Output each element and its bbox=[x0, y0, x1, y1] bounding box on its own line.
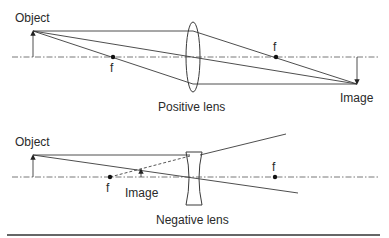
focal-point-right bbox=[274, 55, 278, 59]
focal-point-right bbox=[273, 175, 277, 179]
diverging-ray bbox=[200, 134, 286, 155]
negative-lens-diagram: Object f f Image Negative lens bbox=[12, 134, 380, 227]
image-label: Image bbox=[340, 91, 374, 105]
lens-diagram: Object f f Positive lens Image Object f … bbox=[0, 0, 389, 238]
focal-right-label: f bbox=[273, 40, 277, 54]
focal-point-left bbox=[111, 55, 115, 59]
lens-label: Positive lens bbox=[158, 100, 225, 114]
chief-ray bbox=[33, 155, 298, 193]
focal-point-left bbox=[108, 175, 112, 179]
object-label: Object bbox=[15, 11, 50, 25]
focal-right-label: f bbox=[272, 160, 276, 174]
focal-left-label: f bbox=[110, 61, 114, 75]
object-label: Object bbox=[15, 135, 50, 149]
positive-lens-diagram: Object f f Positive lens Image bbox=[12, 11, 380, 114]
focal-left-label: f bbox=[106, 181, 110, 195]
chief-ray bbox=[33, 31, 357, 84]
lens-label: Negative lens bbox=[156, 213, 229, 227]
virtual-ray-extension bbox=[110, 156, 190, 177]
image-label: Image bbox=[125, 186, 159, 200]
